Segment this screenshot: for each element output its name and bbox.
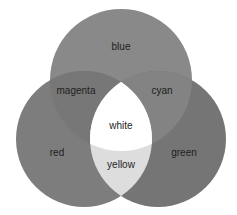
label-white: white [108, 120, 133, 131]
label-green: green [171, 147, 197, 158]
label-red: red [50, 147, 64, 158]
label-cyan: cyan [151, 85, 172, 96]
label-yellow: yellow [107, 159, 136, 170]
label-magenta: magenta [57, 85, 96, 96]
venn-diagram: blue magenta cyan white red yellow green [0, 0, 237, 215]
label-blue: blue [112, 41, 131, 52]
